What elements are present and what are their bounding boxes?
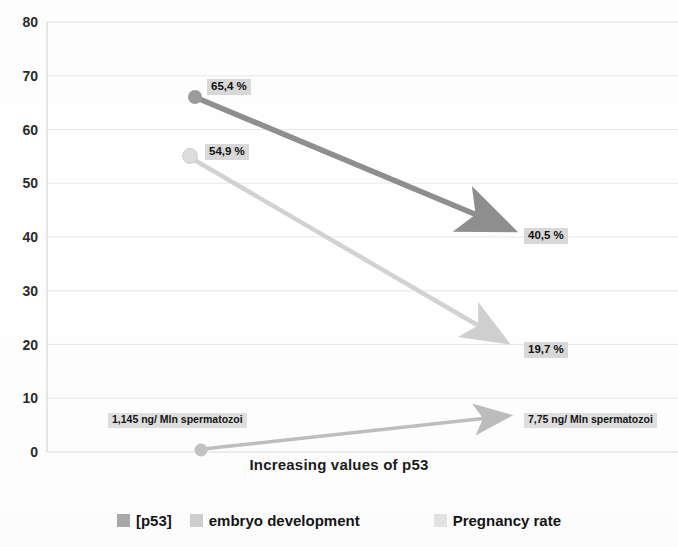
legend-label-embryo-development: embryo development	[209, 512, 360, 529]
chart-root: 80 70 60 50 40 30 20 10 0	[0, 0, 678, 547]
legend-label-pregnancy-rate: Pregnancy rate	[453, 512, 561, 529]
embryo-development-start-marker	[183, 149, 198, 164]
legend-label-p53: [p53]	[136, 512, 172, 529]
series-embryo-development	[183, 149, 504, 341]
pregnancy-rate-start-marker	[188, 90, 202, 104]
y-tick-50: 50	[22, 175, 38, 191]
embryo-development-start-label: 54,9 %	[205, 144, 249, 160]
pregnancy-rate-start-label: 65,4 %	[207, 79, 251, 95]
legend-swatch-embryo-development-icon	[190, 514, 203, 527]
p53-line	[203, 416, 506, 449]
pregnancy-rate-line	[197, 98, 508, 228]
pregnancy-rate-end-label: 40,5 %	[524, 228, 568, 244]
legend-swatch-pregnancy-rate-icon	[434, 514, 447, 527]
y-tick-10: 10	[22, 390, 38, 406]
legend-swatch-p53-icon	[117, 514, 130, 527]
y-tick-20: 20	[22, 337, 38, 353]
y-tick-60: 60	[22, 122, 38, 138]
chart-legend: [p53] embryo development Pregnancy rate	[0, 512, 678, 529]
embryo-development-end-label: 19,7 %	[524, 342, 568, 358]
p53-end-annotation: 7,75 ng/ Mln spermatozoi	[524, 413, 657, 428]
y-tick-labels: 80 70 60 50 40 30 20 10 0	[22, 14, 38, 460]
y-tick-30: 30	[22, 283, 38, 299]
legend-item-p53[interactable]: [p53]	[117, 512, 172, 529]
y-tick-80: 80	[22, 14, 38, 30]
legend-item-pregnancy-rate[interactable]: Pregnancy rate	[434, 512, 561, 529]
y-tick-40: 40	[22, 229, 38, 245]
p53-start-annotation: 1,145 ng/ Mln spermatozoi	[108, 413, 247, 428]
p53-start-marker	[195, 444, 208, 457]
y-gridlines	[47, 22, 678, 452]
x-axis-title: Increasing values of p53	[0, 456, 678, 473]
legend-item-embryo-development[interactable]: embryo development	[190, 512, 360, 529]
embryo-development-line	[191, 158, 503, 340]
chart-figure: 80 70 60 50 40 30 20 10 0	[0, 0, 678, 490]
y-tick-70: 70	[22, 68, 38, 84]
